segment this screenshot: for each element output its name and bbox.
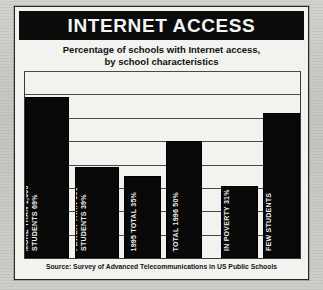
chart-plot-area: MORE THAN 1,000STUDENTS 69%FEWER THAN 30… <box>24 71 301 259</box>
chart-source-note: Source: Survey of Advanced Telecommunica… <box>24 263 299 270</box>
bar-label: IN POVERTY 62%FEW STUDENTS <box>263 189 273 251</box>
bar-label: 1995 TOTAL 35% <box>130 191 139 251</box>
bar[interactable]: FEWER THAN 300STUDENTS 39% <box>75 167 119 258</box>
bar-slot: MORE THAN 1,000STUDENTS 69% <box>25 71 69 258</box>
bar-slot: IN POVERTY 62%FEW STUDENTS <box>263 71 300 258</box>
bar-slot: MANY STUDENTSIN POVERTY 31% <box>221 71 258 258</box>
bar-slot: FEWER THAN 300STUDENTS 39% <box>75 71 119 258</box>
bar[interactable]: MANY STUDENTSIN POVERTY 31% <box>221 186 258 258</box>
bar-label: MANY STUDENTSIN POVERTY 31% <box>221 188 231 251</box>
bar-label-line: TOTAL 1996 50% <box>171 191 180 251</box>
chart-subtitle-line-1: Percentage of schools with Internet acce… <box>25 44 298 56</box>
bar-label-line: MORE THAN 1,000 <box>25 185 30 251</box>
page-title: INTERNET ACCESS <box>68 16 256 35</box>
bar[interactable]: MORE THAN 1,000STUDENTS 69% <box>25 97 69 258</box>
bar[interactable]: IN POVERTY 62%FEW STUDENTS <box>263 113 300 258</box>
bar-label-line: FEWER THAN 300 <box>75 187 80 251</box>
bar-series: MORE THAN 1,000STUDENTS 69%FEWER THAN 30… <box>25 71 300 258</box>
bar[interactable]: 1995 TOTAL 35% <box>124 176 161 258</box>
bar-slot: TOTAL 1996 50% <box>166 71 203 258</box>
title-banner: INTERNET ACCESS <box>19 11 304 40</box>
chart-figure: INTERNET ACCESS Percentage of schools wi… <box>14 6 309 280</box>
bar[interactable]: TOTAL 1996 50% <box>166 141 203 258</box>
bar-label-line: FEW STUDENTS <box>265 189 274 251</box>
chart-subtitle-line-2: by school characteristics <box>25 56 298 68</box>
bar-label: FEWER THAN 300STUDENTS 39% <box>75 187 89 251</box>
bar-label-line: STUDENTS 69% <box>30 185 39 251</box>
bar-label-line: IN POVERTY 31% <box>223 188 232 251</box>
chart-subtitle: Percentage of schools with Internet acce… <box>25 44 298 67</box>
bar-label-line: STUDENTS 39% <box>80 187 89 251</box>
bar-slot: 1995 TOTAL 35% <box>124 71 161 258</box>
bar-label-line: 1995 TOTAL 35% <box>130 191 139 251</box>
bar-label: MORE THAN 1,000STUDENTS 69% <box>25 185 39 251</box>
bar-label: TOTAL 1996 50% <box>171 191 180 251</box>
